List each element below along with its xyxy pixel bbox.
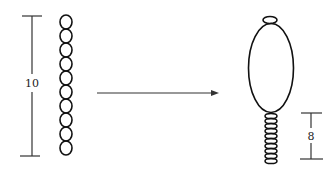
right-scale-label: 8 <box>308 130 315 143</box>
oval-body <box>249 24 294 113</box>
right-segment-chain <box>265 113 277 163</box>
left-scale-label: 10 <box>25 77 39 90</box>
diagram-canvas: 10 8 <box>0 0 336 172</box>
left-segment-chain <box>60 15 72 155</box>
arrow-right-icon <box>97 90 219 96</box>
top-cap <box>263 17 277 24</box>
